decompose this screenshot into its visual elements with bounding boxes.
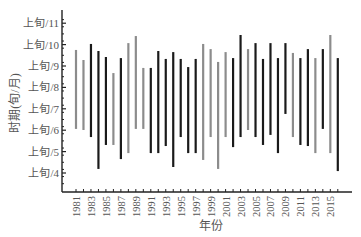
x-tick-label: 1989	[131, 196, 142, 217]
x-tick-label: 2015	[325, 196, 336, 217]
x-tick-label: 1991	[146, 196, 157, 217]
x-tick-label: 1993	[161, 196, 172, 217]
x-tick-label: 1999	[206, 196, 217, 217]
y-axis-ticks: 上旬/4上旬/5上旬/6上旬/7上旬/8上旬/9上旬/10上旬/11	[23, 17, 66, 184]
range-bar-chart: 上旬/4上旬/5上旬/6上旬/7上旬/8上旬/9上旬/10上旬/11 19811…	[0, 0, 361, 237]
x-tick-label: 2005	[251, 196, 262, 217]
x-tick-label: 1981	[71, 196, 82, 217]
y-tick-label: 上旬/5	[28, 146, 59, 158]
x-tick-label: 2013	[310, 196, 321, 217]
x-axis-title: 年份	[199, 219, 223, 233]
y-tick-label: 上旬/10	[23, 39, 60, 51]
y-tick-label: 上旬/7	[28, 103, 59, 115]
x-tick-label: 1987	[116, 196, 127, 217]
x-tick-label: 1983	[86, 196, 97, 217]
x-tick-label: 2001	[221, 196, 232, 217]
x-tick-label: 2003	[236, 196, 247, 217]
x-tick-label: 2011	[295, 196, 306, 217]
x-tick-label: 2007	[265, 196, 276, 217]
x-tick-label: 1995	[176, 196, 187, 217]
x-tick-label: 1985	[101, 196, 112, 217]
chart-container: 上旬/4上旬/5上旬/6上旬/7上旬/8上旬/9上旬/10上旬/11 19811…	[0, 0, 361, 237]
x-tick-label: 2009	[280, 196, 291, 217]
bars-group	[76, 35, 338, 171]
y-tick-label: 上旬/6	[28, 124, 59, 136]
y-tick-label: 上旬/8	[28, 81, 59, 93]
y-tick-label: 上旬/11	[23, 17, 59, 29]
x-axis-ticks: 1981198319851987198919911993199519971999…	[71, 189, 338, 217]
y-tick-label: 上旬/9	[28, 60, 59, 72]
y-tick-label: 上旬/4	[28, 167, 59, 179]
x-tick-label: 1997	[191, 196, 202, 217]
y-axis-title: 时期(旬/月)	[8, 73, 22, 132]
